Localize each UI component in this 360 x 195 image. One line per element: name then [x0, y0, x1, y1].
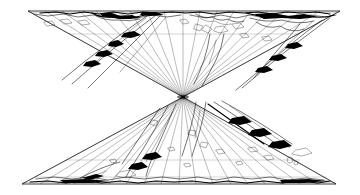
- convergence-point: [177, 95, 189, 99]
- world-map-svg: [0, 0, 360, 195]
- map-figure: [0, 0, 360, 195]
